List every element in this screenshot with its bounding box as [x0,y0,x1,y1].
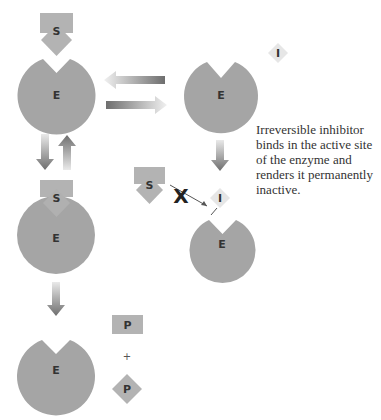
svg-text:I: I [276,47,280,60]
enzyme-inhibitor-complex: I E [190,188,256,283]
svg-text:E: E [217,89,225,102]
enzyme-substrate-complex: S E [17,180,95,274]
inhibitor-free: I [268,43,288,63]
arrow-down-icon [211,140,229,171]
svg-text:I: I [218,192,222,205]
enzyme-inhibition-diagram: S E E I S E S X [0,0,381,420]
inhibitor-caption: Irreversible inhibitor binds in the acti… [256,122,381,197]
equilibrium-arrows [104,71,167,114]
svg-text:P: P [123,383,131,396]
plus-sign: + [123,351,131,362]
arrow-right-icon [106,96,167,114]
binding-arrows [36,134,76,170]
svg-text:E: E [52,232,60,245]
enzyme-target: E [184,62,258,133]
svg-text:E: E [52,364,60,377]
substrate-blocked: S [134,167,165,204]
products: P + P [112,315,143,404]
arrow-left-icon [104,71,165,89]
substrate-label: S [53,25,61,38]
enzyme-label: E [53,89,61,102]
svg-text:S: S [53,192,61,205]
arrow-up-icon [58,135,76,170]
enzyme-free: E [18,59,96,135]
x-mark-icon: X [173,184,189,208]
arrow-down-icon [47,282,65,316]
svg-text:S: S [146,179,154,192]
arrow-down-icon [36,134,54,170]
blocked-binding-marker: X [170,184,207,208]
enzyme-released: E [17,340,95,415]
svg-text:E: E [218,238,226,251]
svg-text:P: P [123,319,131,332]
substrate-free: S [40,13,73,56]
